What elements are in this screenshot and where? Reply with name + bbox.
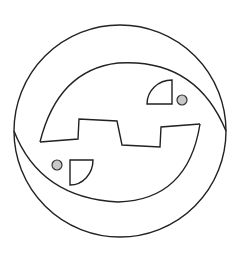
dot-bottom-left (52, 160, 62, 170)
zigzag-line (40, 119, 200, 147)
inner-upper-arc (40, 63, 226, 142)
quarter-circle-top-right (147, 80, 172, 104)
quarter-circle-bottom-left (70, 160, 93, 185)
outer-circle (14, 25, 226, 237)
dot-top-right (177, 95, 187, 105)
diagram-canvas (0, 0, 242, 259)
